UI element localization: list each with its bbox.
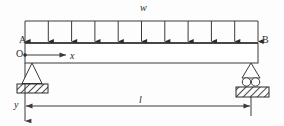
origin-label-o: O <box>16 49 23 59</box>
load-label-w: w <box>140 3 147 13</box>
load-arrow-set <box>25 21 258 42</box>
roller-triangle <box>242 63 260 78</box>
roller-ground-hatch <box>236 87 269 97</box>
beam-diagram-figure: w A B O x y l <box>0 0 284 126</box>
pin-ground-hatch <box>17 84 48 93</box>
beam-group <box>25 43 258 63</box>
roller-wheel <box>251 78 259 86</box>
beam-diagram-canvas <box>0 0 284 126</box>
beam-end-label-a: A <box>19 35 26 45</box>
y-axis-label: y <box>14 100 18 110</box>
right-roller-support <box>236 63 269 97</box>
roller-wheel <box>242 78 250 86</box>
span-length-label: l <box>139 95 142 105</box>
beam-body <box>25 43 258 63</box>
x-axis-label: x <box>70 51 74 61</box>
distributed-load-group <box>25 21 258 42</box>
beam-end-label-b: B <box>262 35 269 45</box>
left-pin-support <box>17 63 48 93</box>
